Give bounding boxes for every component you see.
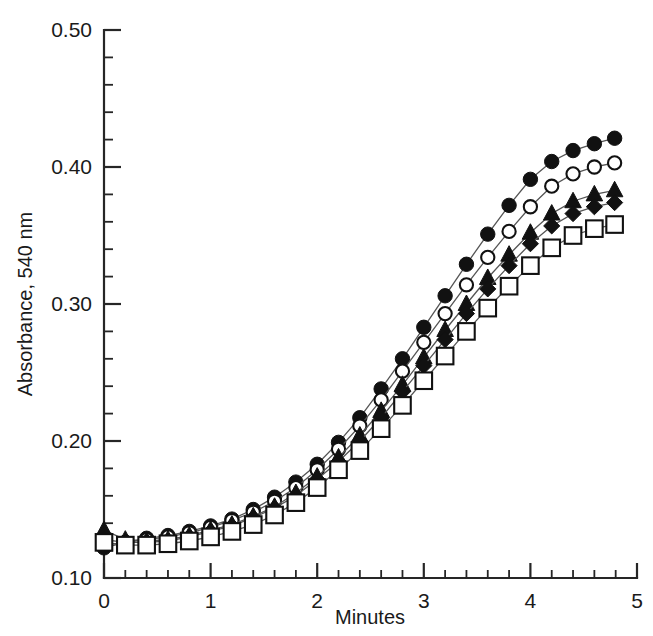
data-point-open-square bbox=[202, 529, 219, 546]
data-point-filled-circle bbox=[481, 227, 495, 241]
data-point-open-square bbox=[181, 533, 198, 550]
data-point-open-square bbox=[160, 535, 177, 552]
absorbance-chart-figure: 0.100.200.300.400.50012345 Minutes Absor… bbox=[0, 0, 653, 636]
series-open-circle bbox=[97, 156, 621, 551]
data-point-open-circle bbox=[460, 278, 473, 291]
axis-ticks bbox=[104, 30, 637, 578]
y-axis-tick-label: 0.40 bbox=[51, 155, 92, 178]
data-point-filled-circle bbox=[545, 154, 559, 168]
data-point-open-circle bbox=[502, 225, 515, 238]
data-point-open-square bbox=[416, 372, 433, 389]
data-point-filled-circle bbox=[607, 131, 621, 145]
x-axis-tick-label: 5 bbox=[631, 589, 643, 612]
data-point-open-square bbox=[352, 442, 369, 459]
data-point-open-circle bbox=[608, 156, 621, 169]
x-axis-tick-label: 1 bbox=[205, 589, 217, 612]
y-axis-tick-label: 0.10 bbox=[51, 566, 92, 589]
data-point-open-circle bbox=[481, 251, 494, 264]
data-point-open-square bbox=[288, 494, 305, 511]
x-axis-tick-label: 2 bbox=[311, 589, 323, 612]
data-point-filled-circle bbox=[523, 172, 537, 186]
data-point-open-square bbox=[522, 257, 539, 274]
data-point-open-square bbox=[266, 507, 283, 524]
axis-spines bbox=[104, 30, 637, 578]
data-point-open-square bbox=[224, 523, 241, 540]
data-point-open-square bbox=[117, 537, 134, 554]
data-point-open-square bbox=[394, 397, 411, 414]
data-point-open-square bbox=[586, 220, 603, 237]
data-point-open-square bbox=[309, 479, 326, 496]
data-point-filled-circle bbox=[566, 143, 580, 157]
data-point-open-circle bbox=[417, 336, 430, 349]
data-point-filled-circle bbox=[417, 320, 431, 334]
data-point-open-square bbox=[437, 348, 454, 365]
data-point-filled-circle bbox=[438, 289, 452, 303]
y-axis-tick-label: 0.50 bbox=[51, 18, 92, 41]
data-point-open-circle bbox=[524, 200, 537, 213]
data-point-open-square bbox=[501, 278, 518, 295]
data-point-open-circle bbox=[545, 180, 558, 193]
data-point-open-square bbox=[373, 420, 390, 437]
x-axis-tick-label: 3 bbox=[418, 589, 430, 612]
data-point-open-square bbox=[330, 461, 347, 478]
data-point-open-circle bbox=[588, 160, 601, 173]
data-point-open-square bbox=[479, 300, 496, 317]
y-axis-tick-label: 0.30 bbox=[51, 292, 92, 315]
data-point-open-square bbox=[458, 323, 475, 340]
data-point-filled-circle bbox=[459, 257, 473, 271]
y-axis-tick-label: 0.20 bbox=[51, 429, 92, 452]
series-line bbox=[104, 163, 615, 545]
data-point-open-square bbox=[543, 240, 560, 257]
x-axis-title: Minutes bbox=[335, 606, 405, 628]
data-point-open-square bbox=[606, 216, 623, 233]
series-filled-triangle bbox=[96, 181, 623, 547]
axis-tick-labels: 0.100.200.300.400.50012345 bbox=[51, 18, 643, 612]
data-point-open-circle bbox=[566, 167, 579, 180]
data-point-open-square bbox=[565, 227, 582, 244]
series-line bbox=[104, 203, 615, 543]
plot-svg: 0.100.200.300.400.50012345 Minutes Absor… bbox=[0, 0, 653, 636]
data-point-filled-circle bbox=[587, 137, 601, 151]
x-axis-tick-label: 0 bbox=[98, 589, 110, 612]
x-axis-tick-label: 4 bbox=[525, 589, 537, 612]
series-open-square bbox=[96, 216, 623, 553]
data-point-filled-circle bbox=[502, 198, 516, 212]
data-point-open-square bbox=[245, 516, 262, 533]
data-point-open-square bbox=[96, 534, 113, 551]
data-series-layer bbox=[96, 131, 623, 555]
y-axis-title: Absorbance, 540 nm bbox=[14, 212, 36, 397]
data-point-open-circle bbox=[439, 307, 452, 320]
data-point-open-square bbox=[138, 537, 155, 554]
